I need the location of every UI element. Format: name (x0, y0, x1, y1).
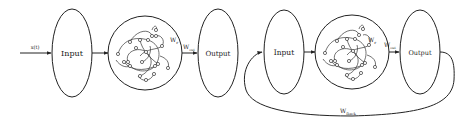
output-label: Output (206, 50, 231, 58)
reservoir-network-icon (323, 25, 377, 80)
input-label: Input (61, 49, 84, 58)
input-signal-label: x(t) (31, 44, 40, 50)
output-weight-label: Wout (384, 41, 397, 50)
diagram-esn-feedback: Input Wr (244, 10, 454, 116)
reservoir-diagrams: x(t) Input (0, 0, 469, 127)
reservoir-network-icon (116, 26, 170, 81)
reservoir-weight-label: Wr (170, 36, 178, 45)
input-label: Input (274, 48, 294, 57)
diagram-esn: x(t) Input (20, 9, 238, 97)
output-weight-label: Wout (183, 43, 196, 52)
output-label: Output (408, 49, 431, 57)
feedback-weight-label: Wfback (340, 107, 357, 116)
